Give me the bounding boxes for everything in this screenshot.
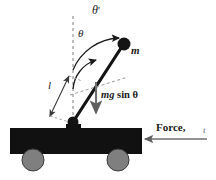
mass-label: m	[131, 45, 140, 56]
force-label: Force,	[156, 122, 185, 133]
mg-sin-theta-label: mg sin θ	[101, 90, 138, 101]
theta-label: θ	[78, 28, 83, 39]
pendulum-bob-mass	[118, 38, 131, 51]
length-label: l	[48, 80, 51, 91]
cart-wheel-right	[107, 149, 129, 171]
cart-wheel-left	[22, 149, 44, 171]
force-variable-label: t	[203, 126, 206, 135]
physics-diagram-inverted-pendulum-cart: θ' θ m l mg sin θ Force, t	[0, 0, 216, 180]
length-measurement-arrow	[50, 76, 69, 116]
pivot-mount	[66, 124, 81, 129]
theta-prime-arc-arrow	[73, 38, 119, 70]
theta-prime-label: θ'	[92, 4, 100, 16]
